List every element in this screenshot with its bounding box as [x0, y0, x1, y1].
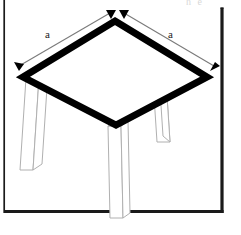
leg-front-front-face — [108, 126, 123, 218]
square-tabletop — [23, 21, 207, 125]
dimension-a-right-arrowhead-end — [210, 62, 220, 71]
dimension-label-a-left: a — [45, 29, 50, 40]
clipped-header-text: h e — [186, 0, 204, 7]
figure-root: a a h e — [0, 0, 241, 235]
table-diagram-svg — [0, 0, 241, 235]
leg-front-side-face — [121, 121, 130, 218]
table-leg-front-center — [108, 121, 130, 218]
tabletop-outline — [23, 21, 207, 125]
dimension-label-a-right: a — [168, 29, 173, 40]
